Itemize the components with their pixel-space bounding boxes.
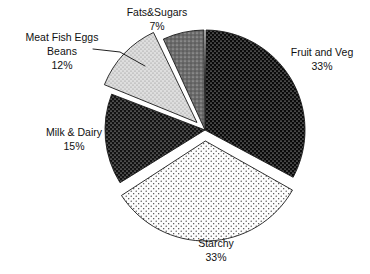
label-milk-and-dairy-value: 15%	[63, 140, 84, 152]
label-milk-and-dairy-name: Milk & Dairy	[46, 126, 103, 138]
pie-chart-canvas: Fruit and Veg 33% Starchy 33% Milk & Dai…	[0, 0, 370, 274]
label-starchy-name: Starchy	[198, 237, 234, 249]
pie-chart-figure: Fruit and Veg 33% Starchy 33% Milk & Dai…	[0, 0, 370, 274]
label-meat-fish-eggs-beans-line2: Beans	[47, 45, 77, 57]
label-fats-and-sugars-name: Fats&Sugars	[127, 6, 188, 18]
label-fruit-and-veg-name: Fruit and Veg	[291, 46, 354, 58]
label-fats-and-sugars-value: 7%	[149, 20, 164, 32]
label-meat-fish-eggs-beans-line1: Meat Fish Eggs	[26, 31, 99, 43]
label-fruit-and-veg-value: 33%	[311, 60, 332, 72]
label-meat-fish-eggs-beans-value: 12%	[51, 59, 72, 71]
label-starchy-value: 33%	[205, 251, 226, 263]
